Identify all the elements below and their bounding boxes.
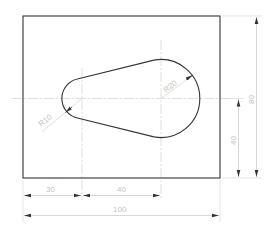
extension-lines xyxy=(23,16,262,222)
technical-drawing-canvas: R10 R20 30 40 100 40 80 xyxy=(0,0,274,234)
dim-text-v80: 80 xyxy=(247,95,256,104)
plate-outline xyxy=(23,16,220,178)
dim-text-100: 100 xyxy=(113,205,127,214)
r20-arrow xyxy=(186,75,193,79)
r10-label: R10 xyxy=(37,112,55,128)
dim-text-30: 30 xyxy=(46,185,55,194)
dim-text-v40: 40 xyxy=(229,136,238,145)
dim-text-40: 40 xyxy=(117,185,126,194)
r10-arrow xyxy=(66,107,73,113)
r20-label: R20 xyxy=(162,78,180,94)
